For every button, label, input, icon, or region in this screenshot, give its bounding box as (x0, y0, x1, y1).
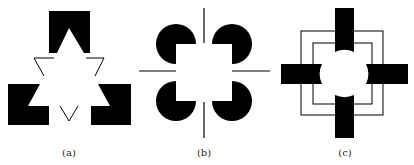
top-notched-block (49, 11, 90, 53)
cross-line-segments (139, 8, 270, 138)
right-bar (366, 64, 408, 84)
figure-a-kanizsa-triangle (8, 11, 131, 125)
pacman-bottom-right (212, 81, 252, 121)
figure-b-illusory-square (139, 8, 270, 138)
top-bar (335, 8, 354, 52)
left-bar (281, 64, 322, 84)
bottom-bar (335, 95, 354, 138)
bottom-left-notched-block (8, 84, 49, 125)
bottom-right-notched-block (91, 84, 131, 125)
caption-c: (c) (330, 147, 360, 158)
caption-b: (b) (189, 147, 219, 158)
illusory-contours-figure (0, 0, 414, 165)
pacman-bottom-left (156, 81, 196, 121)
pacman-top-right (212, 24, 252, 64)
pacman-top-left (156, 24, 196, 64)
caption-a: (a) (54, 147, 84, 158)
figure-c-illusory-circle (281, 8, 408, 138)
